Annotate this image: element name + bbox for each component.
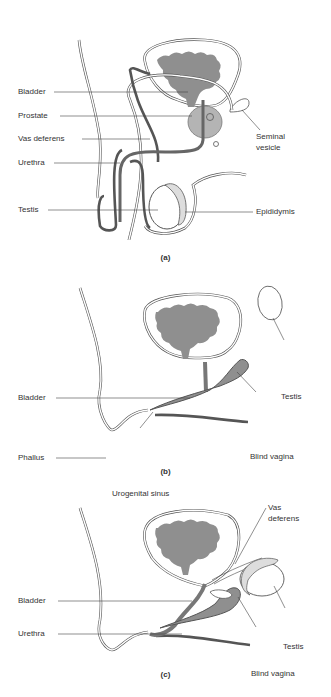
panel-a: Bladder Prostate Vas deferens Urethra Te… xyxy=(0,0,331,240)
caption-a: (a) xyxy=(0,253,331,262)
label-urogenital-sinus: Urogenital sinus xyxy=(112,489,169,499)
caption-c: (c) xyxy=(0,670,331,679)
panel-b: Bladder Phallus Testis Blind vagina Urog… xyxy=(0,280,331,460)
label-phallus: Phallus xyxy=(18,453,44,463)
testis-shape-b xyxy=(255,284,285,322)
label-seminal-vesicle-line2: vesicle xyxy=(256,143,280,153)
caption-b: (b) xyxy=(0,467,331,476)
bladder-shape xyxy=(157,52,221,108)
label-seminal-vesicle-line1: Seminal xyxy=(256,132,285,142)
label-testis: Testis xyxy=(18,205,38,215)
label-bladder-c: Bladder xyxy=(18,596,46,606)
label-vas-deferens-c-line1: Vas xyxy=(268,503,281,513)
panel-c: Bladder Urethra Vas deferens Testis Blin… xyxy=(0,500,331,680)
label-testis-b: Testis xyxy=(281,392,301,402)
prostate-shape xyxy=(188,106,222,138)
label-blind-vagina-b: Blind vagina xyxy=(250,452,294,462)
male-anatomy-illustration xyxy=(0,0,331,240)
bladder-shape-c xyxy=(155,520,220,576)
label-prostate: Prostate xyxy=(18,111,48,121)
label-epididymis: Epididymis xyxy=(256,207,295,217)
label-bladder: Bladder xyxy=(18,87,46,97)
label-urethra: Urethra xyxy=(18,158,45,168)
label-testis-c: Testis xyxy=(283,642,303,652)
intersex-anatomy-illustration-b xyxy=(0,280,331,460)
label-vas-deferens: Vas deferens xyxy=(18,134,65,144)
intersex-anatomy-illustration-c xyxy=(0,500,331,680)
label-urethra-c: Urethra xyxy=(18,629,45,639)
label-vas-deferens-c-line2: deferens xyxy=(268,514,299,524)
label-bladder-b: Bladder xyxy=(18,393,46,403)
